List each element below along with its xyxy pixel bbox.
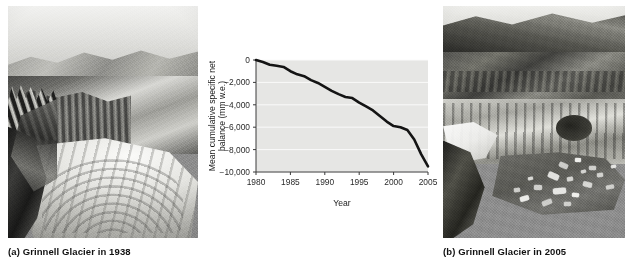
y-tick-label: −2,000 bbox=[224, 77, 250, 87]
iceberg bbox=[564, 202, 571, 206]
mass-balance-chart: 0−2,000−4,000−6,000−8,000−10,000 1980198… bbox=[198, 48, 438, 213]
iceberg bbox=[575, 158, 581, 162]
iceberg bbox=[534, 185, 542, 190]
caption-panel-a: (a) Grinnell Glacier in 1938 bbox=[8, 246, 198, 257]
iceberg bbox=[547, 171, 559, 181]
x-tick-label: 1990 bbox=[315, 177, 334, 187]
iceberg bbox=[605, 184, 614, 189]
figure-panel-b: (b) Grinnell Glacier in 2005 bbox=[443, 6, 625, 257]
iceberg bbox=[514, 188, 520, 193]
x-tick-label: 2005 bbox=[419, 177, 438, 187]
iceberg bbox=[519, 195, 529, 202]
iceberg bbox=[558, 162, 568, 170]
x-tick-label: 2000 bbox=[384, 177, 403, 187]
y-tick-label: −8,000 bbox=[224, 145, 250, 155]
iceberg bbox=[597, 173, 603, 178]
glacier-photo-1938 bbox=[8, 6, 198, 238]
dark-rock-band bbox=[443, 71, 625, 92]
caption-panel-b: (b) Grinnell Glacier in 2005 bbox=[443, 246, 625, 257]
y-tick-label: 0 bbox=[245, 55, 250, 65]
iceberg bbox=[541, 198, 552, 206]
chart-svg: 0−2,000−4,000−6,000−8,000−10,000 1980198… bbox=[198, 48, 438, 213]
iceberg bbox=[580, 169, 585, 173]
plot-background bbox=[256, 60, 428, 172]
x-tick-label: 1995 bbox=[350, 177, 369, 187]
x-tick-label: 1985 bbox=[281, 177, 300, 187]
iceberg bbox=[567, 177, 574, 182]
iceberg bbox=[611, 164, 616, 168]
x-tick-label: 1980 bbox=[247, 177, 266, 187]
floating-ice-bergs bbox=[487, 152, 625, 215]
x-axis-label: Year bbox=[333, 198, 351, 208]
iceberg bbox=[553, 188, 567, 195]
iceberg bbox=[572, 193, 579, 197]
y-axis-label-line-2: balance (mm w.e.) bbox=[217, 81, 227, 151]
dark-rock-outcrop bbox=[556, 115, 592, 141]
iceberg bbox=[528, 177, 533, 181]
iceberg bbox=[589, 166, 596, 170]
figure-panel-a: (a) Grinnell Glacier in 1938 bbox=[8, 6, 198, 257]
x-tick-group: 198019851990199520002005 bbox=[247, 172, 438, 187]
y-tick-label: −10,000 bbox=[219, 167, 250, 177]
iceberg bbox=[583, 181, 593, 188]
y-tick-label: −6,000 bbox=[224, 122, 250, 132]
y-tick-label: −4,000 bbox=[224, 100, 250, 110]
glacier-photo-2005 bbox=[443, 6, 625, 238]
y-axis-label-line-1: Mean cumulative specific net bbox=[207, 60, 217, 171]
